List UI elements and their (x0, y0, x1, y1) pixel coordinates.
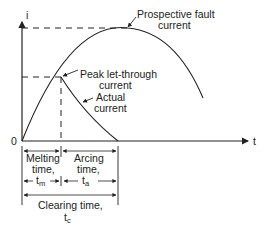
peak-leader (63, 70, 78, 76)
x-axis-label: t (253, 135, 256, 147)
origin-label: 0 (11, 135, 17, 147)
clearing-label: Clearing time, (38, 199, 103, 211)
clearing-symbol: tc (64, 211, 71, 225)
arcing-label-2: time, (77, 163, 100, 175)
fuse-current-diagram: i t 0 Prospective fault current Peak let… (0, 0, 269, 232)
prospective-label-2: current (158, 19, 191, 31)
prospective-leader (128, 17, 136, 27)
actual-label-2: current (94, 102, 127, 114)
peak-label-2: current (99, 79, 132, 91)
actual-leader (83, 98, 93, 102)
melting-symbol: tm (36, 174, 45, 188)
arcing-symbol: ta (82, 174, 90, 188)
y-axis-label: i (26, 9, 28, 21)
